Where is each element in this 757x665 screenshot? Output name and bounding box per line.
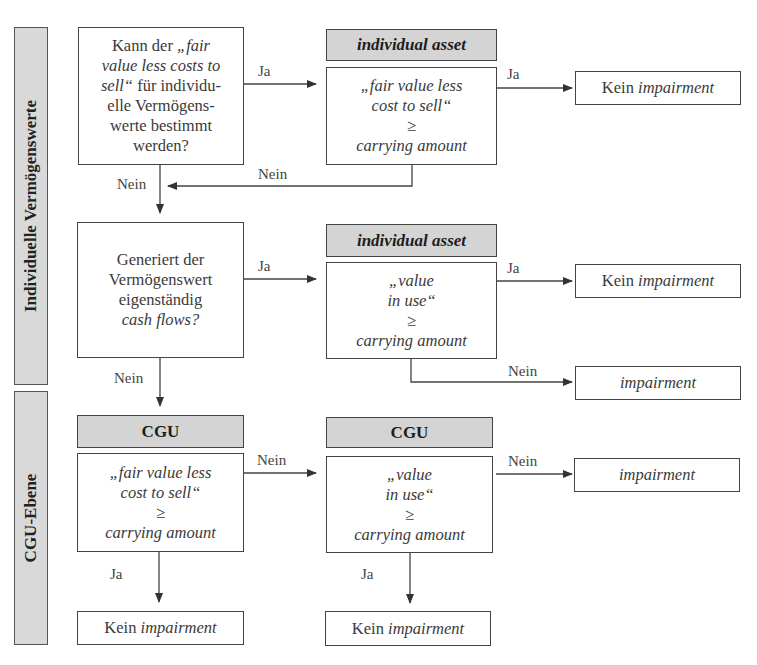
text: impairment	[638, 78, 714, 98]
header-cgu: CGU	[77, 415, 244, 448]
text: impairment	[638, 271, 714, 291]
text: Kein	[104, 618, 140, 638]
test-cgu-value-in-use: „value in use“ ≥ carrying amount	[326, 456, 493, 553]
edge-label-yes: Ja	[507, 260, 520, 277]
side-label-text: CGU-Ebene	[21, 474, 41, 563]
text: elle Vermögens-	[107, 96, 214, 116]
text: „value	[389, 271, 434, 291]
question-own-cash-flows: Generiert der Vermögenswert eigenständig…	[77, 222, 244, 358]
test-individual-fair-value: „fair value less cost to sell“ ≥ carryin…	[326, 67, 497, 165]
text: für individu-	[133, 76, 221, 95]
side-label-text: Individuelle Vermögenswerte	[21, 100, 41, 312]
text: Generiert der	[117, 250, 205, 270]
text: impairment	[619, 465, 695, 485]
text: sell“	[101, 76, 133, 95]
text: cash flows?	[122, 310, 199, 329]
header-cgu: CGU	[326, 417, 493, 448]
result-no-impairment: Kein impairment	[325, 611, 491, 646]
edge-label-yes: Ja	[110, 566, 123, 583]
impairment-flowchart: Individuelle Vermögenswerte CGU-Ebene Ka…	[0, 0, 757, 665]
text: in use“	[385, 485, 433, 505]
edge-label-yes: Ja	[361, 566, 374, 583]
text: ≥	[407, 116, 416, 136]
text: Kein	[602, 78, 638, 98]
result-impairment: impairment	[574, 458, 740, 492]
text: cost to sell“	[372, 96, 452, 116]
text: ≥	[156, 503, 165, 523]
result-no-impairment: Kein impairment	[575, 264, 741, 298]
text: cost to sell“	[121, 483, 201, 503]
edge-label-no: Nein	[114, 370, 143, 387]
text: Kein	[352, 619, 388, 639]
text: „fair value less	[361, 76, 463, 96]
test-cgu-fair-value: „fair value less cost to sell“ ≥ carryin…	[77, 453, 244, 552]
question-fair-value-determinable: Kann der „fair value less costs to sell“…	[78, 27, 244, 165]
text: carrying amount	[356, 331, 466, 351]
result-impairment: impairment	[575, 366, 741, 400]
edge-label-no: Nein	[257, 452, 286, 469]
text: impairment	[620, 373, 696, 393]
edge-label-yes: Ja	[507, 66, 520, 83]
edge-label-no: Nein	[508, 363, 537, 380]
text: werte bestimmt	[110, 116, 212, 136]
text: in use“	[387, 291, 435, 311]
edge-label-no: Nein	[117, 176, 146, 193]
text: werden?	[133, 136, 189, 156]
text: „fair value less	[110, 463, 212, 483]
side-label-cgu-level: CGU-Ebene	[14, 391, 48, 645]
text: carrying amount	[356, 136, 466, 156]
result-no-impairment: Kein impairment	[77, 611, 244, 645]
header-individual-asset: individual asset	[326, 29, 497, 61]
text: impairment	[141, 618, 217, 638]
text: ≥	[407, 311, 416, 331]
text: eigenständig	[119, 290, 202, 310]
edge-label-yes: Ja	[258, 63, 271, 80]
header-individual-asset: individual asset	[326, 224, 497, 257]
text: „value	[387, 465, 432, 485]
text: carrying amount	[354, 525, 464, 545]
edge-label-yes: Ja	[258, 258, 271, 275]
edge-label-no: Nein	[508, 453, 537, 470]
text: carrying amount	[105, 523, 215, 543]
text: „fair	[177, 36, 210, 55]
text: value less costs to	[102, 56, 221, 75]
text: Vermögenswert	[109, 270, 213, 290]
result-no-impairment: Kein impairment	[575, 71, 741, 105]
text: Kein	[602, 271, 638, 291]
test-individual-value-in-use: „value in use“ ≥ carrying amount	[326, 262, 497, 359]
text: Kann der	[112, 36, 177, 55]
text: ≥	[405, 505, 414, 525]
text: impairment	[388, 619, 464, 639]
side-label-individual-assets: Individuelle Vermögenswerte	[14, 27, 48, 385]
edge-label-no: Nein	[258, 166, 287, 183]
